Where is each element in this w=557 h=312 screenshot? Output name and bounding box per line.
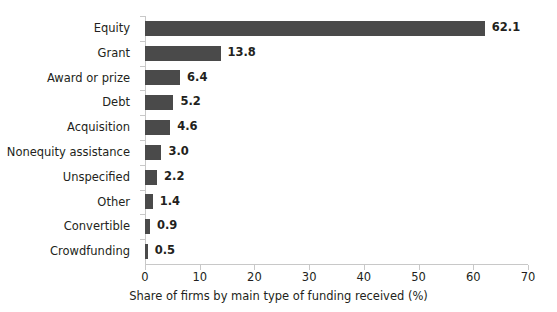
x-axis-tick-label: 30 [289,270,329,284]
bar-value-label: 1.4 [160,193,180,209]
bar-value-label: 3.0 [168,143,188,159]
bar [145,120,170,135]
bar-value-label: 6.4 [187,69,207,85]
bar-value-label: 0.5 [155,242,175,258]
bar-value-label: 62.1 [492,19,520,35]
x-axis-tick-label: 60 [453,270,493,284]
bar-chart: EquityGrantAward or prizeDebtAcquisition… [0,0,557,312]
category-label: Acquisition [0,115,137,140]
bar [145,95,173,110]
x-axis-tick-label: 20 [234,270,274,284]
category-axis-labels: EquityGrantAward or prizeDebtAcquisition… [0,16,137,264]
bar-row: 4.6 [145,115,528,140]
bar-row: 0.5 [145,239,528,264]
bar [145,244,148,259]
category-label: Debt [0,90,137,115]
bar-row: 5.2 [145,90,528,115]
bar-row: 3.0 [145,140,528,165]
bar [145,70,180,85]
bar-row: 13.8 [145,41,528,66]
bar [145,170,157,185]
x-axis-tick-label: 50 [399,270,439,284]
category-label: Convertible [0,214,137,239]
category-label: Unspecified [0,165,137,190]
bar-value-label: 13.8 [228,44,256,60]
bar-row: 2.2 [145,165,528,190]
x-axis-line [145,264,528,265]
category-label: Nonequity assistance [0,140,137,165]
bar [145,145,161,160]
plot-area: 62.113.86.45.24.63.02.21.40.90.5 [145,16,528,264]
category-label: Other [0,190,137,215]
category-label: Crowdfunding [0,239,137,264]
bar-series: 62.113.86.45.24.63.02.21.40.90.5 [145,16,528,264]
bar [145,194,153,209]
category-label: Grant [0,41,137,66]
x-axis-title: Share of firms by main type of funding r… [0,289,557,303]
x-axis-tick-label: 70 [508,270,548,284]
category-label: Equity [0,16,137,41]
bar [145,219,150,234]
bar-value-label: 0.9 [157,217,177,233]
x-axis-tick-label: 40 [344,270,384,284]
bar-row: 0.9 [145,214,528,239]
category-label: Award or prize [0,66,137,91]
bar [145,21,485,36]
x-axis-tick-label: 0 [125,270,165,284]
x-axis-tick-label: 10 [180,270,220,284]
bar-row: 6.4 [145,66,528,91]
bar [145,46,221,61]
bar-value-label: 2.2 [164,168,184,184]
bar-value-label: 5.2 [180,93,200,109]
bar-value-label: 4.6 [177,118,197,134]
bar-row: 62.1 [145,16,528,41]
bar-row: 1.4 [145,190,528,215]
